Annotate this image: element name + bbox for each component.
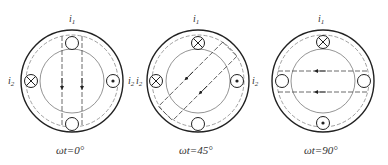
label-i1: i1	[69, 13, 75, 26]
conductor-cross-icon	[150, 75, 163, 88]
rotor-circle	[291, 49, 355, 113]
rotor-circle	[40, 49, 104, 113]
caption-wt-45: ωt=45°	[179, 144, 213, 156]
panel-wt-0: i1 i2 i2 ωt=0°	[8, 13, 135, 156]
caption-wt-0: ωt=0°	[56, 144, 85, 156]
caption-wt-90: ωt=90°	[304, 144, 338, 156]
label-i2-right: i2	[128, 75, 135, 88]
conductor-empty-icon	[276, 75, 289, 88]
conductor-dot-icon	[107, 75, 120, 88]
flux-band-edge	[158, 106, 172, 120]
label-i2-left: i2	[8, 75, 15, 88]
arrow-icon	[200, 86, 207, 93]
conductor-dot-icon	[317, 117, 330, 130]
label-i1: i1	[318, 13, 324, 26]
flux-band-edge	[223, 42, 237, 56]
conductor-cross-icon	[317, 36, 330, 49]
rotor-circle	[166, 49, 230, 113]
arrow-icon	[186, 72, 193, 79]
conductor-empty-icon	[192, 118, 205, 131]
label-i2-left: i2	[136, 75, 143, 88]
conductor-cross-icon	[25, 75, 38, 88]
panel-wt-45: i1 i2 i2 ωt=45°	[136, 13, 259, 156]
label-i1: i1	[193, 13, 199, 26]
label-i2-right: i2	[252, 75, 259, 88]
stator-field-diagram: i1 i2 i2 ωt=0° i	[0, 0, 388, 165]
conductor-empty-icon	[66, 118, 79, 131]
conductor-empty-icon	[66, 37, 79, 50]
conductor-cross-icon	[192, 37, 205, 50]
conductor-dot-icon	[231, 75, 244, 88]
conductor-empty-icon	[358, 75, 371, 88]
panel-wt-90: i1 ωt=90°	[272, 13, 374, 156]
